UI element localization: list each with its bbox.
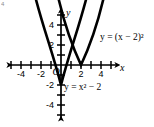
y-tick-label--4: -4 bbox=[46, 100, 54, 110]
axes-group bbox=[9, 11, 117, 119]
y-tick-label-4: 4 bbox=[49, 20, 54, 30]
x-tick-label-4: 4 bbox=[98, 69, 103, 79]
coordinate-plane-svg: Graph of two parabolas on a coordinate p… bbox=[0, 0, 154, 127]
x-tick-label--4: -4 bbox=[17, 69, 25, 79]
y-axis-label: y bbox=[65, 7, 71, 18]
parabola-figure: Graph of two parabolas on a coordinate p… bbox=[0, 0, 154, 127]
curve-label-x-squared-minus-2: y = x² − 2 bbox=[64, 82, 102, 92]
curve-label-x-minus-2-squared: y = (x − 2)² bbox=[100, 32, 144, 43]
x-tick-label--2: -2 bbox=[37, 69, 45, 79]
x-axis-label: x bbox=[119, 62, 125, 73]
x-tick-label-2: 2 bbox=[78, 69, 83, 79]
origin-label: O bbox=[52, 66, 59, 77]
y-tick-label-2: 2 bbox=[49, 40, 54, 50]
y-tick-label--2: -2 bbox=[46, 80, 54, 90]
